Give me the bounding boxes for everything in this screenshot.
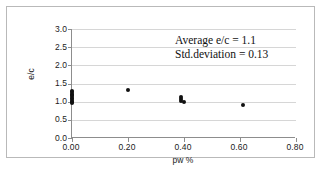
gridline-horizontal <box>72 65 296 66</box>
y-tick-mark <box>68 120 72 121</box>
data-point <box>182 100 186 104</box>
x-axis-tick-labels: 0.000.200.400.600.80 <box>71 143 295 155</box>
chart-frame: 0.00.51.01.52.02.53.0 0.000.200.400.600.… <box>6 6 315 158</box>
data-point <box>126 88 130 92</box>
y-tick-label: 2.5 <box>33 43 67 52</box>
gridline-horizontal <box>72 84 296 85</box>
x-tick-label: 0.80 <box>287 143 304 152</box>
x-tick-label: 0.40 <box>175 143 192 152</box>
y-axis-tick-labels: 0.00.51.01.52.02.53.0 <box>33 29 67 138</box>
annotation-average-line: Average e/c = 1.1 <box>175 34 268 48</box>
gridline-horizontal <box>72 120 296 121</box>
x-tick-label: 0.00 <box>63 143 80 152</box>
x-tick-label: 0.20 <box>119 143 136 152</box>
y-tick-mark <box>68 29 72 30</box>
y-tick-label: 0.5 <box>33 115 67 124</box>
y-tick-label: 1.5 <box>33 79 67 88</box>
x-axis-title: pw % <box>71 155 295 165</box>
gridline-horizontal <box>72 29 296 30</box>
y-axis-title: e/c <box>26 60 36 88</box>
x-tick-label: 0.60 <box>231 143 248 152</box>
data-point <box>241 103 245 107</box>
y-tick-label: 3.0 <box>33 25 67 34</box>
y-tick-label: 1.0 <box>33 97 67 106</box>
y-tick-label: 2.0 <box>33 61 67 70</box>
data-point <box>70 101 74 105</box>
y-tick-mark <box>68 65 72 66</box>
annotation-stddev-line: Std.deviation = 0.13 <box>175 48 268 62</box>
chart-annotation: Average e/c = 1.1 Std.deviation = 0.13 <box>175 34 268 61</box>
y-tick-mark <box>68 47 72 48</box>
y-tick-mark <box>68 84 72 85</box>
chart-figure: 0.00.51.01.52.02.53.0 0.000.200.400.600.… <box>0 0 323 173</box>
